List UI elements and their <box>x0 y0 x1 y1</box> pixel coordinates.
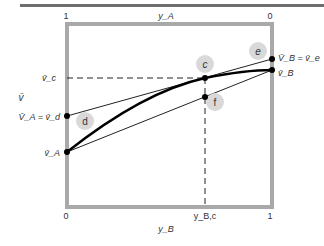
diagram-canvas: d c e f 1 y_A 0 0 y_B,c 1 y_B v̄ v̄_c V̄… <box>0 0 324 246</box>
VB-equals-ve-label: V̄_B = v̄_e <box>278 53 320 63</box>
top-rule <box>20 4 324 7</box>
v-c-label: v̄_c <box>42 73 57 83</box>
point-vA-dot <box>64 149 70 155</box>
top-axis-left-tick: 1 <box>63 11 68 21</box>
bottom-axis-left-tick: 0 <box>63 211 68 221</box>
bottom-axis-marked-value: y_B,c <box>194 211 217 221</box>
point-d-label: d <box>82 116 88 127</box>
top-axis-label: y_A <box>157 11 174 21</box>
vA-label: v̄_A <box>44 148 60 158</box>
VA-equals-vd-label: V̄_A = v̄_d <box>19 112 61 122</box>
bottom-axis-right-tick: 1 <box>267 211 272 221</box>
point-e-dot <box>269 56 275 62</box>
ideal-mixing-line <box>67 70 272 152</box>
point-f-dot <box>202 94 208 100</box>
vB-label: v̄_B <box>278 68 294 78</box>
tangent-line <box>67 59 272 116</box>
point-c-dot <box>202 75 208 81</box>
point-e-label: e <box>255 46 261 57</box>
plot-frame <box>67 24 272 207</box>
top-axis-right-tick: 0 <box>267 11 272 21</box>
point-c-label: c <box>203 59 208 70</box>
bottom-axis-label: y_B <box>157 224 174 234</box>
y-axis-label: v̄ <box>19 92 25 103</box>
point-f-label: f <box>214 97 217 108</box>
point-vB-dot <box>269 67 275 73</box>
point-d-dot <box>64 113 70 119</box>
